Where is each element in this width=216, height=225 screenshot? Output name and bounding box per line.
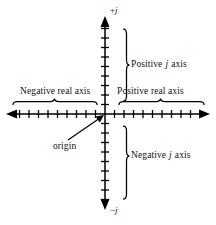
real-axis-right-arrowhead — [199, 110, 210, 119]
label-negative-j-axis: Negative j axis — [131, 151, 191, 161]
j-symbol: j — [115, 5, 118, 15]
real-axis-left-arrowhead — [6, 110, 17, 119]
real-axis-group — [6, 110, 210, 119]
axis-endpoint-label-positive-imaginary: +j — [110, 6, 118, 15]
brace-negative-j — [124, 126, 130, 199]
complex-plane-figure: +j −j Positive j axis Negative j axis Po… — [0, 0, 216, 225]
imaginary-axis-top-arrowhead — [101, 16, 110, 27]
label-suffix: axis — [175, 150, 191, 160]
j-symbol: j — [169, 150, 173, 160]
brace-negative-real — [13, 99, 97, 105]
j-symbol: j — [165, 59, 169, 69]
label-positive-j-axis: Positive j axis — [131, 60, 187, 70]
label-positive-real-axis: Positive real axis — [117, 87, 184, 97]
label-prefix: Negative — [131, 150, 166, 160]
label-suffix: axis — [171, 59, 187, 69]
brace-positive-real — [119, 99, 204, 105]
label-negative-real-axis: Negative real axis — [20, 87, 90, 97]
axis-endpoint-label-negative-imaginary: −j — [110, 206, 118, 215]
imaginary-axis-group — [101, 16, 110, 210]
imaginary-axis-bottom-arrowhead — [101, 199, 110, 210]
origin-arrow-shaft — [68, 118, 100, 140]
label-prefix: Positive — [131, 59, 162, 69]
j-symbol: j — [115, 205, 118, 215]
origin-arrow-head — [96, 115, 105, 123]
label-origin: origin — [53, 142, 76, 152]
axes-drawing — [0, 0, 216, 225]
origin-arrow — [68, 115, 104, 140]
